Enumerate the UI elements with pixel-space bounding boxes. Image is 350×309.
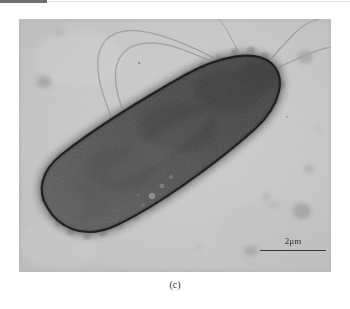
top-hairline-rule bbox=[47, 1, 350, 2]
top-scan-bar-artifact bbox=[0, 0, 47, 3]
micrograph-image bbox=[19, 19, 331, 272]
scale-bar-line bbox=[260, 250, 326, 251]
scale-bar-label: 2μm bbox=[260, 236, 326, 247]
film-grain bbox=[19, 19, 331, 272]
scale-bar: 2μm bbox=[260, 236, 326, 266]
panel-caption: (c) bbox=[0, 279, 350, 290]
micrograph-panel bbox=[19, 19, 331, 272]
